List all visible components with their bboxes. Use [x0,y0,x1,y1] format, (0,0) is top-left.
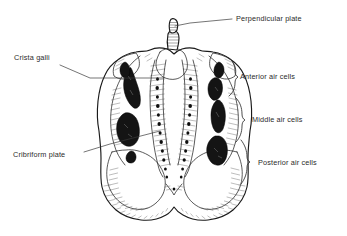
label-cribriform-plate: Cribriform plate [13,150,65,159]
label-crista-galli: Crista galli [14,53,50,62]
label-posterior-air-cells: Posterior air cells [258,158,317,167]
right-middle-air-cell [211,100,225,133]
midline-foramen [173,188,176,191]
ethmoid-bone-figure: Perpendicular plate Crista galli Cribrif… [0,0,347,236]
anatomical-illustration: Perpendicular plate Crista galli Cribrif… [0,0,347,236]
label-perpendicular-plate: Perpendicular plate [236,14,302,23]
label-middle-air-cells: Middle air cells [252,115,303,124]
label-anterior-air-cells: Anterior air cells [240,72,295,81]
crista-galli-ridge [167,31,179,50]
right-posterior-air-cell [207,136,228,165]
